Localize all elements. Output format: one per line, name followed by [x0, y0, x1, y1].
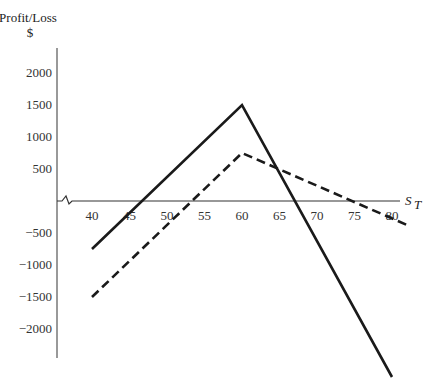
- x-tick-label: 55: [198, 208, 211, 223]
- series-dashed-line: [92, 153, 407, 297]
- y-tick-label: 500: [33, 161, 53, 176]
- y-tick-label: 2000: [26, 65, 52, 80]
- series-solid-line: [92, 105, 392, 377]
- x-tick-label: 40: [86, 208, 99, 223]
- y-axis-unit: $: [27, 25, 34, 40]
- y-tick-label: −2000: [19, 321, 52, 336]
- x-tick-label: 65: [273, 208, 286, 223]
- y-axis-title: Profit/Loss: [0, 10, 57, 25]
- y-tick-label: 1500: [26, 97, 52, 112]
- x-axis-title-subscript: T: [414, 197, 422, 212]
- x-tick-label: 75: [348, 208, 361, 223]
- y-tick-label: 1000: [26, 129, 52, 144]
- x-tick-label: 60: [236, 208, 249, 223]
- payoff-chart: Profit/Loss$200015001000500−500−1000−150…: [0, 0, 440, 389]
- y-tick-label: −1500: [19, 289, 52, 304]
- x-tick-label: 70: [311, 208, 324, 223]
- y-tick-label: −500: [25, 225, 52, 240]
- x-axis-title: S: [405, 193, 412, 208]
- y-tick-label: −1000: [19, 257, 52, 272]
- x-tick-label: 50: [161, 208, 174, 223]
